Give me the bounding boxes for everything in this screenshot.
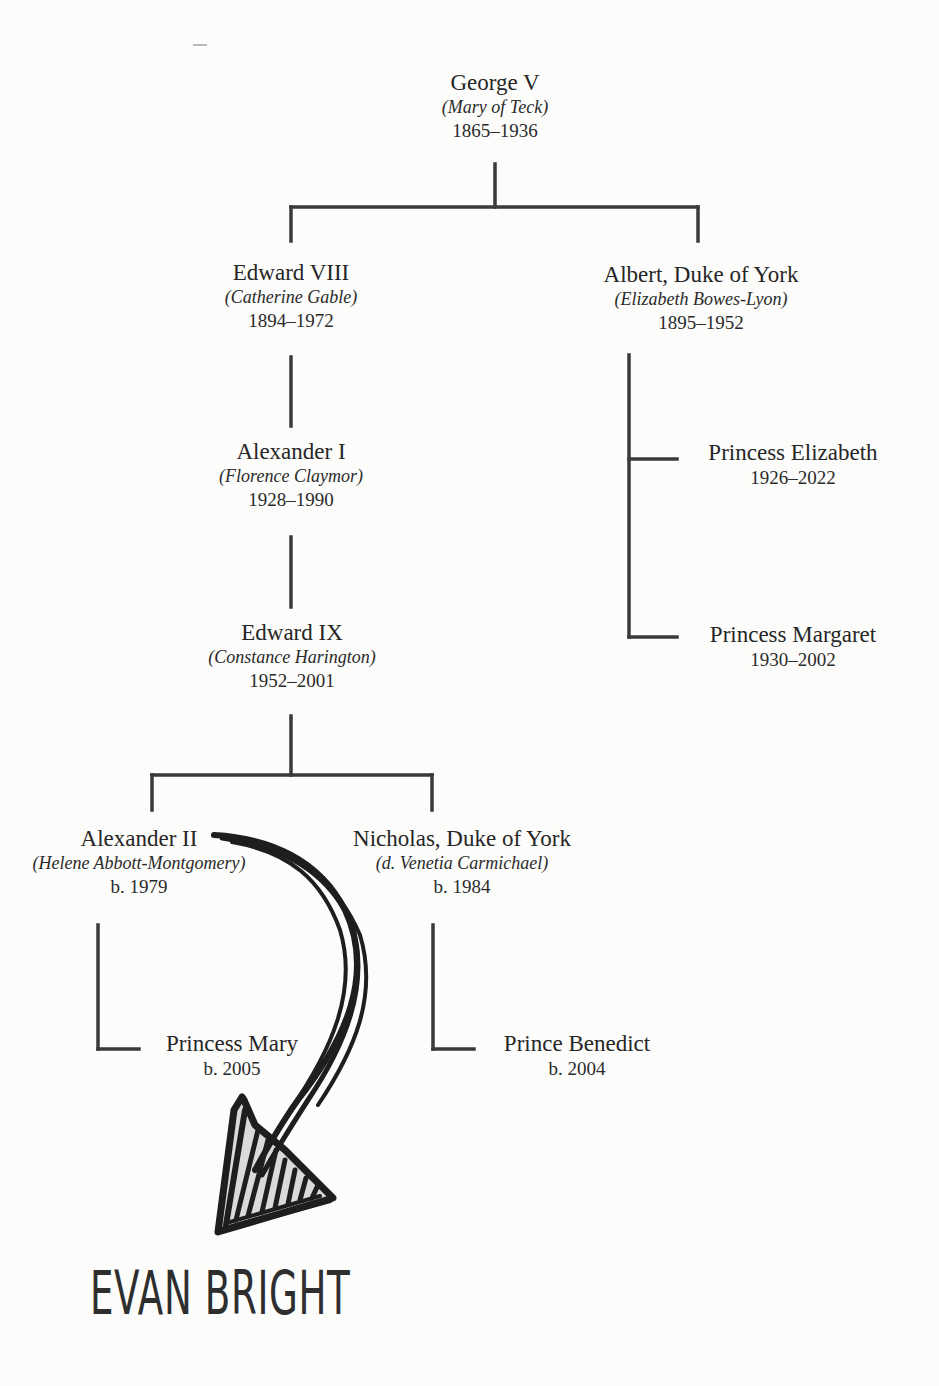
person-name: Princess Elizabeth [708,441,877,464]
person-name: Albert, Duke of York [604,263,799,286]
life-dates: b. 1984 [353,877,571,896]
person-prince-benedict: Prince Benedict b. 2004 [504,1032,650,1078]
person-edward-ix: Edward IX (Constance Harington) 1952–200… [208,621,375,690]
person-alexander-i: Alexander I (Florence Claymor) 1928–1990 [219,440,363,509]
spouse-name: (Catherine Gable) [225,288,357,306]
family-tree-page: George V (Mary of Teck) 1865–1936 Edward… [0,0,939,1386]
person-name: George V [442,71,548,94]
tree-connectors [0,0,939,1386]
person-name: Princess Mary [166,1032,298,1055]
life-dates: 1926–2022 [708,468,877,487]
person-name: Princess Margaret [710,623,876,646]
person-name: Edward VIII [225,261,357,284]
person-name: Edward IX [208,621,375,644]
spouse-name: (d. Venetia Carmichael) [353,854,571,872]
person-albert-duke-of-york: Albert, Duke of York (Elizabeth Bowes-Ly… [604,263,799,332]
spouse-name: (Elizabeth Bowes-Lyon) [604,290,799,308]
life-dates: 1895–1952 [604,313,799,332]
life-dates: 1865–1936 [442,121,548,140]
spouse-name: (Florence Claymor) [219,467,363,485]
person-princess-mary: Princess Mary b. 2005 [166,1032,298,1078]
spouse-name: (Mary of Teck) [442,98,548,116]
person-name: Nicholas, Duke of York [353,827,571,850]
person-name: Alexander II [32,827,245,850]
life-dates: 1928–1990 [219,490,363,509]
spouse-name: (Constance Harington) [208,648,375,666]
life-dates: 1930–2002 [710,650,876,669]
handwritten-label: EVAN BRIGHT [90,1258,350,1328]
person-edward-viii: Edward VIII (Catherine Gable) 1894–1972 [225,261,357,330]
person-nicholas-duke-of-york: Nicholas, Duke of York (d. Venetia Carmi… [353,827,571,896]
life-dates: b. 1979 [32,877,245,896]
life-dates: 1894–1972 [225,311,357,330]
person-alexander-ii: Alexander II (Helene Abbott-Montgomery) … [32,827,245,896]
life-dates: b. 2004 [504,1059,650,1078]
person-princess-elizabeth: Princess Elizabeth 1926–2022 [708,441,877,487]
person-name: Prince Benedict [504,1032,650,1055]
life-dates: b. 2005 [166,1059,298,1078]
spouse-name: (Helene Abbott-Montgomery) [32,854,245,872]
life-dates: 1952–2001 [208,671,375,690]
person-name: Alexander I [219,440,363,463]
person-george-v: George V (Mary of Teck) 1865–1936 [442,71,548,140]
person-princess-margaret: Princess Margaret 1930–2002 [710,623,876,669]
